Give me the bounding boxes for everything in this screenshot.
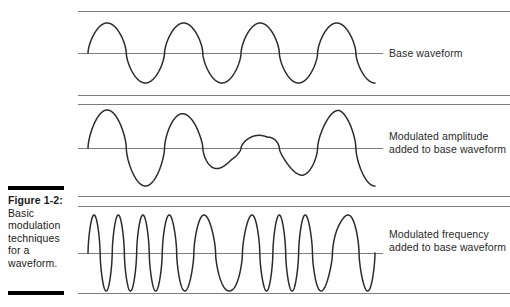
annotation-frequency-modulation: Modulated frequency added to base wavefo… [389,228,507,253]
annotation-amplitude-modulation: Modulated amplitude added to base wavefo… [389,130,507,155]
waveform-curves-group [88,23,375,291]
figure-container: Figure 1-2: Basic modulation techniques … [0,0,510,307]
annotation-base-waveform: Base waveform [389,47,507,60]
